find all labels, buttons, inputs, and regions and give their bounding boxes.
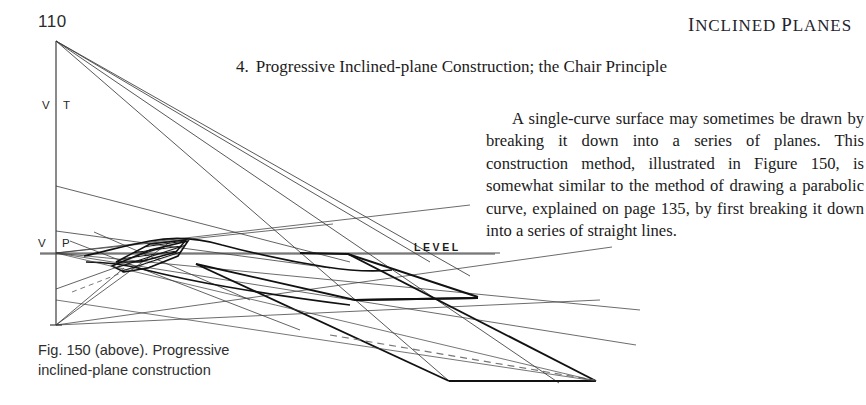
- body-column: A single-curve surface may sometimes be …: [486, 108, 864, 242]
- vt-construction-rays: [56, 41, 559, 383]
- vertical-axis-line: [50, 41, 62, 325]
- left-dashed-guide: [72, 258, 160, 292]
- label-vt-t: T: [63, 99, 70, 111]
- hatched-plane-upper: [116, 240, 186, 262]
- body-paragraph: A single-curve surface may sometimes be …: [486, 108, 864, 242]
- running-head: INCLINED PLANES: [688, 14, 852, 36]
- curve-lower-contour: [86, 262, 350, 305]
- section-title: Progressive Inclined-plane Construction;…: [256, 57, 667, 76]
- curve-upper-contour: [84, 238, 392, 271]
- label-vp-p: P: [62, 237, 70, 249]
- figure-caption-line-1: Fig. 150 (above). Progressive: [38, 340, 298, 360]
- label-level: LEVEL: [414, 241, 461, 253]
- section-heading: 4.Progressive Inclined-plane Constructio…: [236, 57, 667, 77]
- label-vt-v: V: [42, 99, 50, 111]
- section-number: 4.: [236, 57, 249, 76]
- figure-caption-line-2: inclined-plane construction: [38, 360, 298, 380]
- base-origin-rays: [56, 242, 612, 325]
- hatched-plane-lower: [112, 241, 188, 272]
- auxiliary-rays: [56, 186, 350, 330]
- figure-caption: Fig. 150 (above). Progressive inclined-p…: [38, 340, 298, 380]
- hidden-edge-dashed: [330, 335, 594, 380]
- page-number: 110: [38, 12, 67, 32]
- label-vp-v: V: [38, 237, 46, 249]
- running-head-text: INCLINED PLANES: [688, 16, 852, 35]
